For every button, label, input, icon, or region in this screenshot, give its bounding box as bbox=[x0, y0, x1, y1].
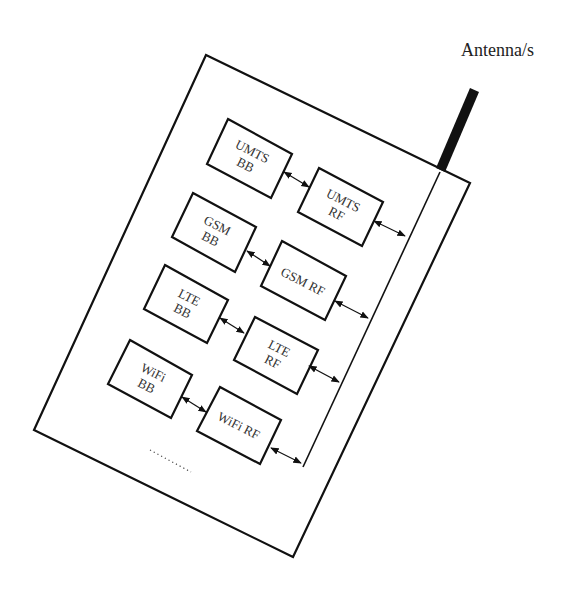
arrow-umts-rf-bus bbox=[374, 221, 405, 236]
antenna-label: Antenna/s bbox=[461, 40, 534, 60]
arrow-wifi-rf-bus bbox=[271, 448, 301, 463]
device-frame bbox=[34, 55, 470, 557]
block-lte-rf: LTE RF bbox=[234, 317, 318, 394]
more-radios-ellipsis bbox=[150, 450, 191, 472]
arrow-gsm-rf-bus bbox=[335, 301, 368, 318]
block-lte-bb: LTE BB bbox=[144, 265, 228, 343]
arrow-gsm-bb-rf bbox=[247, 251, 270, 266]
block-gsm-bb: GSM BB bbox=[172, 193, 256, 272]
block-gsm-rf: GSM RF bbox=[261, 241, 346, 320]
block-umts-rf: UMTS RF bbox=[298, 168, 383, 246]
antenna-icon bbox=[436, 88, 479, 172]
arrow-lte-bb-rf bbox=[220, 318, 244, 333]
block-umts-bb: UMTS BB bbox=[207, 119, 292, 198]
arrow-umts-bb-rf bbox=[284, 172, 309, 187]
block-wifi-bb: WiFi BB bbox=[108, 340, 192, 418]
arrow-wifi-bb-rf bbox=[182, 397, 206, 412]
block-wifi-rf: WiFi RF bbox=[197, 387, 281, 464]
multi-radio-device-diagram: Antenna/s UMTS BB UMTS RF GS bbox=[0, 0, 586, 589]
arrow-lte-rf-bus bbox=[309, 366, 339, 382]
